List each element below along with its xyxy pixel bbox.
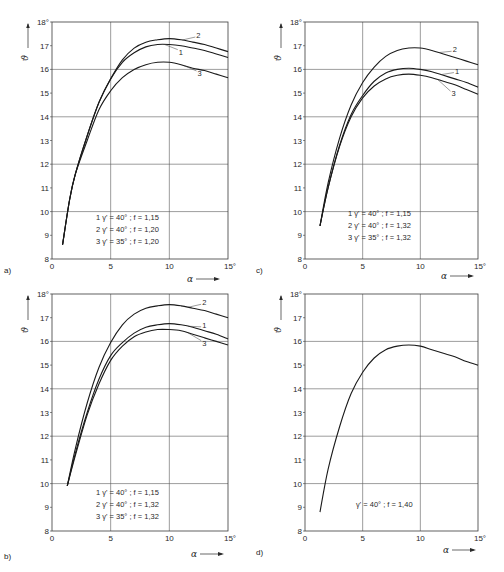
curves [67,305,228,486]
svg-text:18°: 18° [37,290,49,299]
svg-text:18°: 18° [37,18,49,27]
svg-text:3: 3 [202,339,206,348]
legend: 1 γ' = 40° ; f = 1,152 γ' = 40° ; f = 1,… [96,488,159,521]
svg-text:15: 15 [293,89,302,98]
svg-text:5: 5 [360,262,365,271]
legend-entry: 3 γ' = 35° ; f = 1,32 [348,233,411,242]
svg-text:14: 14 [293,385,302,394]
svg-text:ϑ: ϑ [20,54,30,61]
svg-text:5: 5 [360,534,365,543]
svg-text:17: 17 [40,314,49,323]
curve-1 [67,324,228,486]
svg-text:18°: 18° [290,18,302,27]
panel-label-d: d) [256,548,263,557]
y-axis-label: ϑ [273,23,283,61]
svg-text:5: 5 [108,534,113,543]
svg-text:15: 15 [293,361,302,370]
panel-label-c: c) [256,266,263,275]
plot-frame [305,294,478,531]
legend-entry: 2 γ' = 40° ; f = 1,32 [96,500,159,509]
svg-text:10: 10 [40,208,49,217]
figure-canvas: 89101112131415161718°051015°ϑα1231 γ' = … [0,0,504,572]
svg-text:17: 17 [40,42,49,51]
svg-text:15°: 15° [474,534,486,543]
svg-text:15°: 15° [224,262,236,271]
legend-entry: 1 γ' = 40° ; f = 1,15 [96,488,159,497]
svg-text:13: 13 [293,137,302,146]
svg-text:13: 13 [293,409,302,418]
chart-panel-b: 89101112131415161718°051015°ϑα1231 γ' = … [20,290,236,559]
x-axis-label: α [191,549,224,559]
curve-40f140 [320,345,478,512]
x-axis-label: α [187,274,220,284]
svg-text:0: 0 [50,534,55,543]
svg-text:16: 16 [40,65,49,74]
svg-text:1: 1 [179,48,183,57]
legend-entry: 3 γ' = 35° ; f = 1,32 [96,512,159,521]
svg-text:13: 13 [40,409,49,418]
svg-text:9: 9 [298,231,303,240]
svg-text:15°: 15° [474,262,486,271]
svg-text:11: 11 [294,184,303,193]
svg-text:12: 12 [293,432,302,441]
grid-lines [52,22,228,259]
svg-text:16: 16 [40,337,49,346]
legend-entry: γ' = 40° ; f = 1,40 [356,500,413,509]
y-axis-label: ϑ [20,295,30,333]
svg-text:14: 14 [40,385,49,394]
svg-text:0: 0 [50,262,55,271]
svg-text:12: 12 [40,160,49,169]
svg-text:15°: 15° [224,534,236,543]
svg-text:17: 17 [293,42,302,51]
svg-text:17: 17 [293,314,302,323]
legend: γ' = 40° ; f = 1,40 [356,500,413,509]
svg-text:16: 16 [293,65,302,74]
svg-text:10: 10 [165,262,174,271]
y-axis-ticks: 89101112131415161718° [290,290,305,536]
plot-frame [52,22,228,259]
chart-panel-c: 89101112131415161718°051015°ϑα1231 γ' = … [273,18,486,281]
svg-text:α: α [187,274,193,284]
curves [320,345,478,512]
x-axis-ticks: 051015° [50,262,236,271]
legend-entry: 1 γ' = 40° ; f = 1,15 [348,209,411,218]
svg-text:2: 2 [196,31,200,40]
svg-text:α: α [441,271,447,281]
svg-text:10: 10 [416,534,425,543]
svg-text:ϑ: ϑ [20,326,30,333]
svg-text:α: α [191,549,197,559]
panel-label-a: a) [4,266,11,275]
svg-text:9: 9 [45,231,50,240]
y-axis-ticks: 89101112131415161718° [290,18,305,264]
svg-text:ϑ: ϑ [273,54,283,61]
legend-entry: 3 γ' = 35° ; f = 1,20 [96,237,159,246]
svg-text:α: α [443,545,449,555]
x-axis-ticks: 051015° [303,262,486,271]
x-axis-label: α [441,271,474,281]
svg-text:16: 16 [293,337,302,346]
legend: 1 γ' = 40° ; f = 1,152 γ' = 40° ; f = 1,… [96,213,159,246]
chart-panel-a: 89101112131415161718°051015°ϑα1231 γ' = … [20,18,236,284]
svg-text:ϑ: ϑ [273,326,283,333]
svg-text:10: 10 [40,480,49,489]
y-axis-ticks: 89101112131415161718° [37,290,52,536]
svg-text:15: 15 [40,89,49,98]
svg-text:12: 12 [293,160,302,169]
svg-text:5: 5 [108,262,113,271]
legend-entry: 1 γ' = 40° ; f = 1,15 [96,213,159,222]
x-axis-ticks: 051015° [303,534,486,543]
svg-text:9: 9 [45,503,50,512]
legend-entry: 2 γ' = 40° ; f = 1,20 [96,225,159,234]
svg-text:3: 3 [197,69,201,78]
curve-labels: 123 [188,298,206,347]
svg-text:9: 9 [298,503,303,512]
grid-lines [305,294,478,531]
svg-text:0: 0 [303,262,308,271]
x-axis-label: α [443,545,476,555]
svg-text:12: 12 [40,432,49,441]
y-axis-label: ϑ [273,295,283,333]
legend-entry: 2 γ' = 40° ; f = 1,32 [348,221,411,230]
svg-text:0: 0 [303,534,308,543]
svg-text:11: 11 [294,456,303,465]
curve-3 [67,329,228,486]
